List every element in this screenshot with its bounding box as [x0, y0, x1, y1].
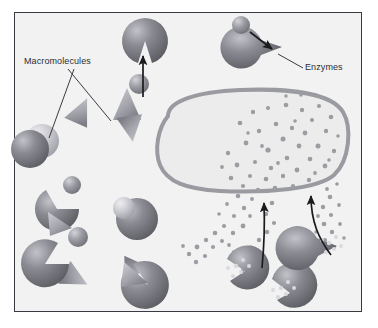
macromolecules-leader-2	[49, 69, 74, 138]
cleaved-fragment-cone	[64, 93, 98, 128]
diagram-canvas	[0, 0, 378, 328]
cleaved-fragment-cone	[116, 114, 145, 143]
enzyme-pacman	[275, 226, 337, 270]
macromolecule-sphere	[63, 176, 81, 194]
cleaved-macromolecule	[21, 239, 69, 287]
macromolecule-complex-right	[113, 197, 158, 240]
substrate-sphere	[232, 16, 250, 34]
macromolecules-label: Macromolecules	[24, 56, 91, 66]
macromolecule-sphere	[68, 227, 88, 247]
diagram-figure: Macromolecules Enzymes	[0, 0, 378, 328]
enzyme-pacman	[122, 18, 168, 63]
enzymes-leader	[278, 54, 303, 68]
cleaved-macromolecule	[121, 261, 169, 309]
macromolecule-sphere	[129, 74, 149, 94]
enzymes-label: Enzymes	[305, 62, 343, 72]
